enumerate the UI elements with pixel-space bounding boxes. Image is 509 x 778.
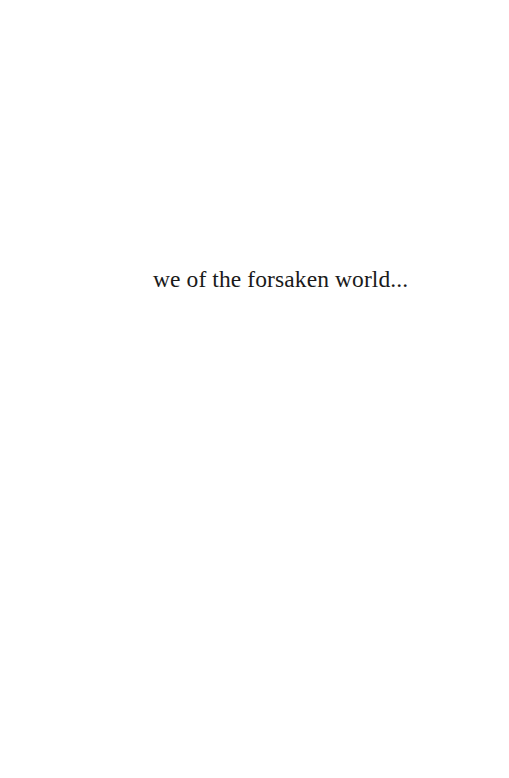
book-page: we of the forsaken world... (0, 0, 509, 778)
epigraph-text: we of the forsaken world... (153, 265, 408, 293)
